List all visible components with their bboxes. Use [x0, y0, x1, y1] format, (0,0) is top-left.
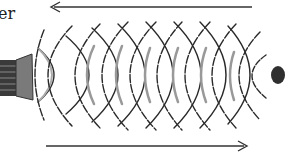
- echo-wave-diagram: [0, 0, 290, 152]
- object-icon: [271, 66, 285, 84]
- outgoing-direction-arrow: [46, 141, 247, 151]
- reflected-waves: [35, 22, 266, 130]
- speaker-icon: [0, 54, 33, 100]
- reflected-direction-arrow: [51, 2, 252, 12]
